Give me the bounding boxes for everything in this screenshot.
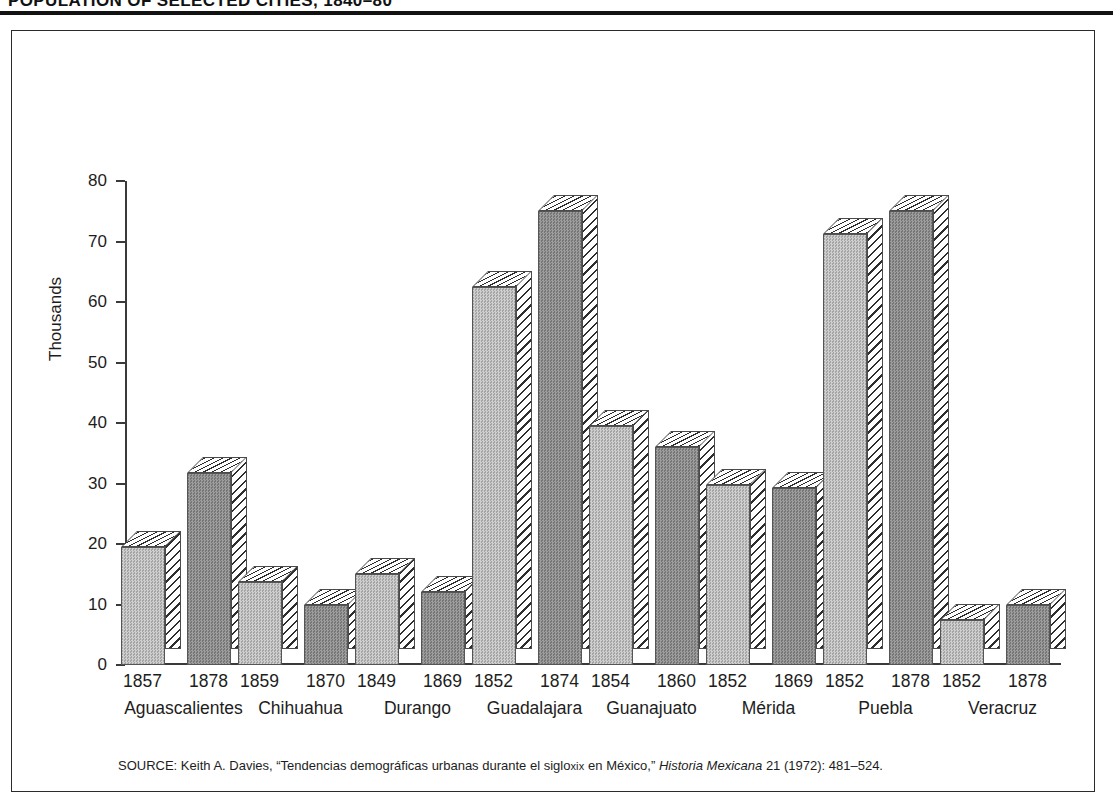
bar-side-face: [933, 195, 949, 649]
figure-page: POPULATION OF SELECTED CITIES, 1840–80 T…: [0, 0, 1113, 811]
y-tick-mark: [116, 301, 125, 303]
bar-dark: [304, 605, 348, 666]
y-tick-label: 10: [73, 596, 107, 613]
y-tick-label: 60: [73, 293, 107, 310]
y-tick-mark: [116, 422, 125, 424]
bar-side-face: [633, 410, 649, 649]
x-axis-year-label: 1852: [459, 673, 529, 691]
source-quote-close: ”: [651, 758, 655, 773]
bar-side-face: [516, 271, 532, 649]
bar-dark: [421, 592, 465, 665]
bar-light: [238, 582, 282, 665]
figure-title-strip: POPULATION OF SELECTED CITIES, 1840–80: [0, 0, 1113, 11]
bar-dark: [772, 488, 816, 665]
source-article-smallcaps: xix: [570, 760, 584, 772]
y-tick-mark: [116, 362, 125, 364]
figure-frame: Thousands 01020304050607080 18571878Agua…: [11, 30, 1095, 792]
source-author: Keith A. Davies,: [181, 758, 273, 773]
bar-dark: [187, 473, 231, 665]
source-citation: 21 (1972): 481–524.: [766, 758, 883, 773]
x-axis-year-label: 1852: [927, 673, 997, 691]
page-title: POPULATION OF SELECTED CITIES, 1840–80: [8, 0, 392, 11]
bar-dark: [889, 211, 933, 665]
bar-side-face: [165, 531, 181, 649]
y-tick-label: 80: [73, 172, 107, 189]
x-axis-category-label: Veracruz: [883, 700, 1113, 718]
bar-light: [706, 485, 750, 665]
bar-dark: [1006, 605, 1050, 666]
bar-light: [823, 234, 867, 665]
y-axis-title: Thousands: [46, 277, 66, 361]
x-axis-year-label: 1857: [108, 673, 178, 691]
x-axis-year-label: 1854: [576, 673, 646, 691]
source-journal: Historia Mexicana: [659, 758, 762, 773]
y-tick-label: 70: [73, 233, 107, 250]
y-tick-label: 40: [73, 414, 107, 431]
bar-light: [355, 574, 399, 665]
bar-light: [472, 287, 516, 665]
y-tick-label: 30: [73, 475, 107, 492]
x-axis-year-label: 1878: [993, 673, 1063, 691]
source-note: SOURCE: Keith A. Davies, “Tendencias dem…: [118, 758, 883, 774]
y-tick-label: 20: [73, 535, 107, 552]
y-tick-label: 0: [73, 656, 107, 673]
source-article-part2: en México,: [588, 758, 651, 773]
x-axis-year-label: 1859: [225, 673, 295, 691]
x-axis-year-label: 1852: [693, 673, 763, 691]
y-tick-label: 50: [73, 354, 107, 371]
y-tick-mark: [116, 180, 125, 182]
bar-light: [589, 426, 633, 665]
source-prefix: SOURCE:: [118, 758, 177, 773]
y-tick-mark: [116, 483, 125, 485]
bar-dark: [655, 447, 699, 665]
bar-light: [940, 620, 984, 665]
title-rule: [0, 11, 1113, 15]
x-axis-year-label: 1849: [342, 673, 412, 691]
bar-side-face: [750, 469, 766, 649]
x-axis-year-label: 1852: [810, 673, 880, 691]
bar-light: [121, 547, 165, 665]
y-tick-mark: [116, 241, 125, 243]
source-article-part1: Tendencias demográficas urbanas durante …: [281, 758, 571, 773]
bar-side-face: [867, 218, 883, 649]
bar-dark: [538, 211, 582, 665]
